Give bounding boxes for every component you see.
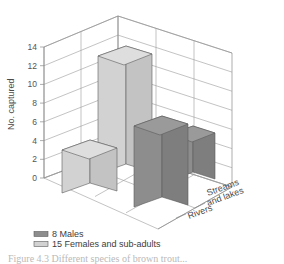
y-axis-title: No. captured (6, 78, 16, 130)
bar-rivers-males[interactable] (134, 116, 188, 207)
chart-3d-bar: 0 2 4 6 8 10 12 14 No. captured (0, 0, 284, 264)
y-tick-14: 14 (28, 42, 38, 52)
y-tick-0: 0 (32, 173, 37, 183)
y-tick-2: 2 (32, 154, 37, 164)
figure-caption: Figure 4.3 Different species of brown tr… (8, 253, 187, 264)
y-tick-6: 6 (32, 117, 37, 127)
figure-container: 0 2 4 6 8 10 12 14 No. captured (0, 0, 284, 264)
legend: 8 Males 15 Females and sub-adults (34, 229, 161, 249)
legend-label-females: 15 Females and sub-adults (52, 239, 161, 249)
legend-swatch-males (34, 232, 48, 237)
y-tick-8: 8 (32, 98, 37, 108)
y-tick-4: 4 (32, 136, 37, 146)
y-tick-10: 10 (28, 79, 38, 89)
legend-item-females[interactable]: 15 Females and sub-adults (34, 239, 161, 249)
y-axis: 0 2 4 6 8 10 12 14 No. captured (6, 42, 44, 183)
legend-label-males: 8 Males (52, 229, 84, 239)
figure-caption-text: Figure 4.3 Different species of brown tr… (8, 253, 187, 264)
y-tick-12: 12 (28, 61, 38, 71)
legend-swatch-females (34, 242, 48, 247)
legend-item-males[interactable]: 8 Males (34, 229, 84, 239)
bar-rivers-females[interactable] (62, 140, 117, 193)
